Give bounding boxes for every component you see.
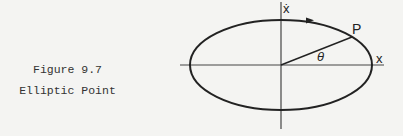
xdot-axis-label: ẋ <box>283 1 290 16</box>
point-label: P <box>352 21 361 37</box>
x-axis-label: x <box>376 51 383 66</box>
phase-plane-diagram: P x ẋ θ <box>0 0 403 136</box>
angle-label: θ <box>317 49 324 64</box>
